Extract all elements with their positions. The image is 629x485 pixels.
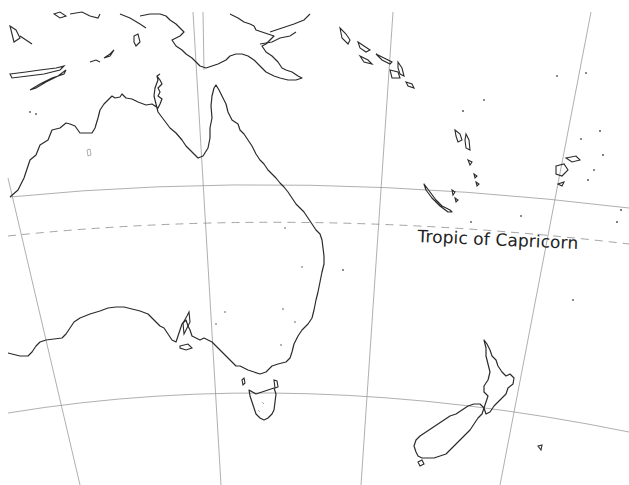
stewart-island — [418, 460, 424, 466]
small-islands — [29, 72, 622, 346]
meridian-3 — [361, 12, 393, 485]
flinders-island — [274, 380, 278, 388]
parallels — [8, 185, 629, 432]
new-zealand-south-island — [414, 404, 484, 458]
new-britain — [260, 32, 296, 44]
png-border-line — [203, 12, 204, 70]
king-island — [242, 378, 245, 385]
australia-mainland — [8, 74, 324, 374]
parallel-upper — [10, 185, 629, 208]
fiji — [556, 156, 580, 186]
lake-argyle — [87, 149, 91, 156]
chatham-islands — [538, 445, 542, 450]
meridian-2 — [193, 12, 221, 485]
new-guinea — [140, 14, 302, 80]
parallel-lower — [8, 393, 629, 432]
new-guinea-north-coast — [270, 14, 310, 32]
new-caledonia — [424, 184, 452, 212]
meridian-1 — [8, 178, 80, 485]
vanuatu — [455, 130, 479, 186]
kangaroo-island — [180, 344, 192, 350]
indonesia-islands — [10, 12, 146, 90]
solomon-islands — [340, 28, 414, 88]
new-zealand-north-island — [484, 340, 514, 414]
tasmania-lakes — [258, 402, 264, 412]
